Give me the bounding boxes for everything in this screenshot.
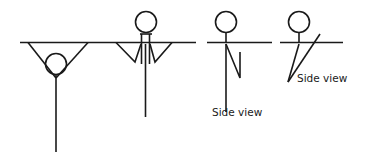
stick-figure-diagram: Side view Side view — [0, 0, 367, 158]
figure-3-caption: Side view — [212, 106, 263, 118]
figure-4-caption: Side view — [297, 72, 348, 84]
